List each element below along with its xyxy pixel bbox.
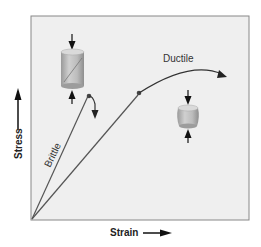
y-axis-arrow-icon [15,88,22,100]
y-axis-label: Stress [13,128,24,159]
plot-area [31,16,249,220]
y-axis: Stress [13,88,24,159]
ductile-label: Ductile [163,53,194,64]
stress-strain-diagram: Ductile Brittle Stress Strain [0,0,261,247]
x-axis-label: Strain [110,227,138,238]
x-axis: Strain [110,227,172,238]
x-axis-arrow-icon [160,230,172,237]
